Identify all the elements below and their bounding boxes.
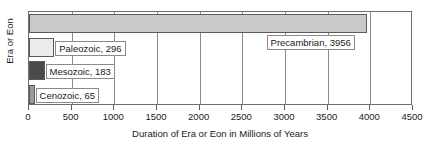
x-tick-label: 2000 bbox=[188, 110, 209, 124]
bar-chart: Era or Eon Precambrian, 3956Paleozoic, 2… bbox=[0, 0, 435, 150]
x-tick-label: 0 bbox=[25, 110, 30, 124]
bar-cenozoic bbox=[29, 85, 35, 104]
x-tick-label: 1000 bbox=[103, 110, 124, 124]
x-tick-label: 1500 bbox=[145, 110, 166, 124]
x-tick-label: 2500 bbox=[231, 110, 252, 124]
x-tick-label: 500 bbox=[63, 110, 79, 124]
x-tick-label: 4000 bbox=[359, 110, 380, 124]
bars-layer: Precambrian, 3956Paleozoic, 296Mesozoic,… bbox=[29, 12, 411, 104]
bar-mesozoic bbox=[29, 61, 45, 80]
bar-paleozoic bbox=[29, 38, 54, 57]
data-label-precambrian: Precambrian, 3956 bbox=[267, 35, 355, 50]
x-axis-tick-labels: 050010001500200025003000350040004500 bbox=[28, 110, 412, 124]
data-label-mesozoic: Mesozoic, 183 bbox=[46, 64, 115, 79]
y-axis-title: Era or Eon bbox=[1, 9, 19, 73]
x-tick-label: 3500 bbox=[316, 110, 337, 124]
x-tick-label: 3000 bbox=[273, 110, 294, 124]
data-label-paleozoic: Paleozoic, 296 bbox=[55, 41, 125, 56]
bar-precambrian bbox=[29, 14, 367, 33]
x-tick-label: 4500 bbox=[401, 110, 422, 124]
x-axis-title: Duration of Era or Eon in Millions of Ye… bbox=[28, 128, 412, 139]
data-label-cenozoic: Cenozoic, 65 bbox=[36, 88, 99, 103]
plot-area: Precambrian, 3956Paleozoic, 296Mesozoic,… bbox=[28, 11, 412, 105]
